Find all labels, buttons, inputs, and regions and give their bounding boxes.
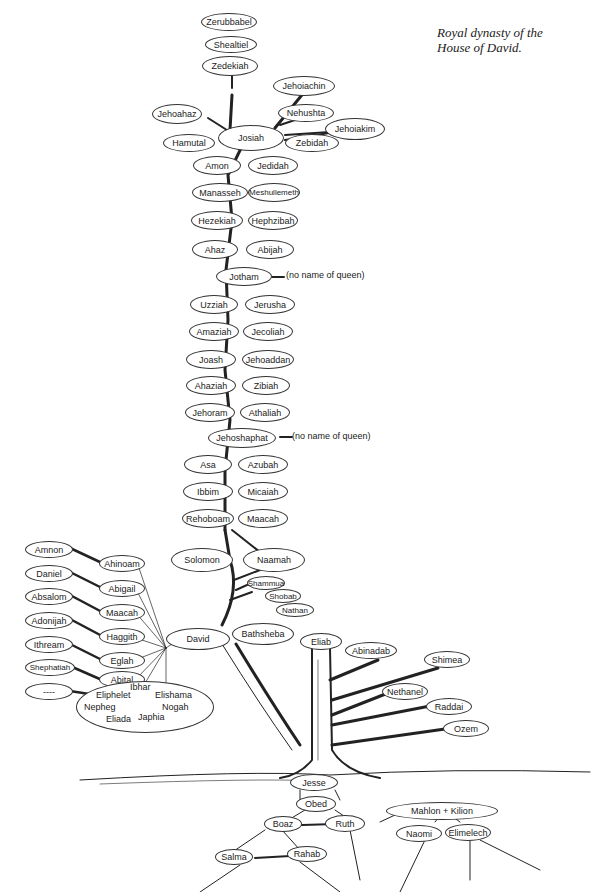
node-zedekiah: Zedekiah (202, 56, 258, 76)
caption-line-1: Royal dynasty of the (437, 25, 587, 40)
son-nepheg: Nepheg (84, 702, 116, 712)
node-zerubbabel: Zerubbabel (201, 13, 257, 31)
node-queen-zibiah: Zibiah (242, 376, 290, 395)
node-king-jehoshaphat: Jehoshaphat (208, 428, 276, 448)
node-obed: Obed (296, 796, 336, 812)
node-queen-athaliah: Athaliah (240, 403, 290, 422)
caption-line-2: House of David. (437, 40, 587, 55)
node-king-ahaz: Ahaz (192, 240, 238, 259)
node-abinadab: Abinadab (345, 642, 397, 659)
node-king-ahaziah: Ahaziah (186, 376, 236, 395)
node-jehoiachin: Jehoiachin (273, 76, 335, 96)
node-shammua: Shammua (247, 576, 285, 590)
son-japhia: Japhia (138, 712, 165, 722)
node-queen-maacah: Maacah (238, 509, 288, 528)
node-nehushta: Nehushta (278, 104, 334, 122)
node-queen-jedidah: Jedidah (248, 156, 298, 175)
node-king-solomon: Solomon (171, 548, 233, 572)
note-no-queen-jehoshaphat: (no name of queen) (292, 431, 371, 441)
node-jehoiakim: Jehoiakim (325, 118, 385, 140)
tree-drawing (0, 0, 594, 892)
node-son-unnamed: ---- (25, 683, 73, 700)
node-nathan: Nathan (276, 603, 314, 617)
node-king-uzziah: Uzziah (190, 295, 238, 314)
son-nogah: Nogah (162, 702, 189, 712)
node-queen-azubah: Azubah (238, 455, 288, 474)
node-bathsheba: Bathsheba (232, 623, 294, 645)
node-queen-abijah: Abijah (246, 240, 294, 259)
node-king-amon: Amon (193, 156, 241, 175)
node-king-amaziah: Amaziah (189, 322, 239, 341)
node-son-shephatiah: Shephatiah (25, 659, 75, 676)
node-ozem: Ozem (443, 720, 489, 737)
node-son-amnon: Amnon (25, 541, 73, 558)
node-hamutal: Hamutal (163, 134, 215, 152)
node-wife-maacah: Maacah (99, 604, 145, 621)
node-wife-haggith: Haggith (99, 628, 145, 645)
node-son-daniel: Daniel (25, 565, 73, 582)
node-mahlon-kilion: Mahlon + Kilion (386, 802, 498, 820)
royal-dynasty-diagram: Royal dynasty of the House of David. Zer… (0, 0, 594, 892)
node-wife-eglah: Eglah (99, 652, 145, 669)
node-queen-jehoaddan: Jehoaddan (242, 350, 294, 369)
node-boaz: Boaz (264, 816, 302, 832)
node-queen-jerusha: Jerusha (245, 295, 295, 314)
node-shealtiel: Shealtiel (205, 36, 257, 53)
node-rahab: Rahab (287, 846, 327, 862)
diagram-caption: Royal dynasty of the House of David. (437, 25, 587, 55)
node-king-rehoboam: Rehoboam (182, 509, 234, 528)
node-jehoahaz: Jehoahaz (152, 104, 202, 124)
node-king-jehoram: Jehoram (185, 403, 235, 422)
son-elishama: Elishama (155, 690, 192, 700)
node-queen-micaiah: Micaiah (238, 482, 288, 501)
node-elimelech: Elimelech (445, 824, 491, 841)
node-wife-ahinoam: Ahinoam (99, 555, 145, 572)
node-naomi: Naomi (396, 825, 442, 842)
node-josiah: Josiah (218, 125, 284, 151)
node-queen-hephzibah: Hephzibah (248, 211, 298, 230)
node-wife-abigail: Abigail (99, 580, 145, 597)
node-queen-naamah: Naamah (243, 548, 305, 572)
son-ibhar: Ibhar (130, 682, 151, 692)
node-son-ithream: Ithream (25, 636, 73, 653)
son-eliada: Eliada (106, 714, 131, 724)
node-jesse: Jesse (290, 774, 338, 791)
node-king-manasseh: Manasseh (192, 183, 248, 202)
node-shobab: Shobab (265, 589, 301, 603)
son-eliphelet: Eliphelet (96, 690, 131, 700)
node-salma: Salma (215, 849, 253, 865)
node-son-absalom: Absalom (25, 588, 73, 605)
node-king-jotham: Jotham (216, 267, 272, 286)
node-shimea: Shimea (424, 651, 470, 668)
node-king-ibbim: Ibbim (183, 482, 233, 501)
node-eliab: Eliab (300, 633, 342, 650)
node-nethanel: Nethanel (382, 683, 428, 700)
node-king-asa: Asa (184, 455, 232, 474)
node-david: David (166, 628, 230, 650)
node-king-joash: Joash (186, 350, 236, 369)
node-raddai: Raddai (426, 698, 472, 715)
node-son-adonijah: Adonijah (25, 612, 73, 629)
node-queen-jecoliah: Jecoliah (243, 322, 293, 341)
note-no-queen-jotham: (no name of queen) (286, 270, 365, 280)
node-zebidah: Zebidah (285, 134, 339, 152)
node-ruth: Ruth (325, 815, 365, 832)
node-queen-meshullemeth: Meshullemeth (248, 183, 300, 202)
node-king-hezekiah: Hezekiah (191, 211, 243, 230)
